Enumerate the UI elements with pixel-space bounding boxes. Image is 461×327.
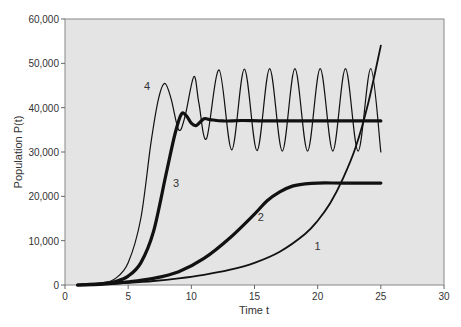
x-axis: 051015202530 (62, 285, 450, 302)
x-tick-label: 30 (438, 291, 450, 302)
x-tick-label: 10 (186, 291, 198, 302)
x-tick-label: 20 (312, 291, 324, 302)
curve-label-4: 4 (144, 80, 150, 92)
x-axis-label: Time t (239, 304, 269, 316)
curve-label-2: 2 (258, 211, 264, 223)
population-chart: 010,00020,00030,00040,00050,00060,000 05… (0, 0, 461, 327)
y-tick-label: 30,000 (28, 147, 59, 158)
y-tick-label: 60,000 (28, 14, 59, 25)
y-tick-label: 50,000 (28, 58, 59, 69)
curve-label-1: 1 (315, 240, 321, 252)
y-tick-label: 0 (53, 280, 59, 291)
plot-area (65, 19, 444, 285)
x-tick-label: 25 (375, 291, 387, 302)
y-tick-label: 40,000 (28, 103, 59, 114)
y-tick-label: 10,000 (28, 236, 59, 247)
y-tick-label: 20,000 (28, 191, 59, 202)
x-tick-label: 5 (125, 291, 131, 302)
y-axis: 010,00020,00030,00040,00050,00060,000 (28, 14, 65, 291)
x-tick-label: 0 (62, 291, 68, 302)
x-tick-label: 15 (249, 291, 261, 302)
y-axis-label: Population P(t) (12, 116, 24, 189)
curve-label-3: 3 (173, 177, 179, 189)
